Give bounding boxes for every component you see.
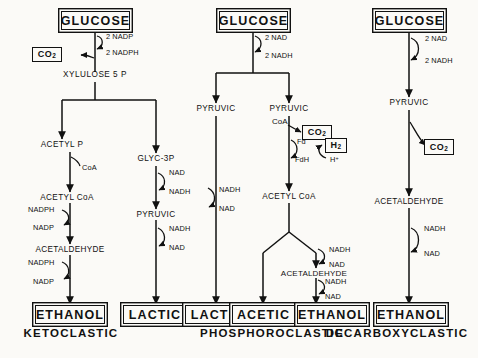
cofactor-2-nad-c3: 2 NAD xyxy=(425,34,447,43)
cofactor-nadp-1: NADP xyxy=(33,223,54,232)
label-coa-2: CoA xyxy=(272,117,288,126)
label-pyruvic-3: PYRUVIC xyxy=(389,98,428,107)
cofactor-nadph-1: NADPH xyxy=(28,205,54,214)
cofactor-2-nad-c2: 2 NAD xyxy=(265,33,287,42)
pathway-name-ketoclastic: KETOCLASTIC xyxy=(24,327,119,339)
cofactor-coa-1: CoA xyxy=(82,163,97,172)
label-glyc-3p: GLYC-3P xyxy=(137,154,174,163)
cofactor-curve-nadh-nad-c2a xyxy=(318,249,325,264)
label-acetyl-coa-1: ACETYL CoA xyxy=(40,193,94,202)
cofactor-line-coa xyxy=(71,157,80,166)
label-pyruvic-2-left: PYRUVIC xyxy=(196,104,235,113)
box-acetic-phosphoroclastic: ACETIC xyxy=(232,305,295,324)
cofactor-2-nadph: 2 NADPH xyxy=(106,48,139,57)
cofactor-curve-nadph-nadp-1 xyxy=(62,210,69,225)
cofactor-nadh-c2left: NADH xyxy=(219,185,240,194)
cofactor-nadh-c1: NADH xyxy=(169,187,190,196)
box-ethanol-decarboxyclastic: ETHANOL xyxy=(376,305,446,324)
cofactor-curve-nadph-nadp-2 xyxy=(62,262,69,279)
box-glucose-decarboxyclastic: GLUCOSE xyxy=(375,11,444,30)
ethanol-label-3: ETHANOL xyxy=(377,308,445,322)
cofactor-curve-2nad-2nadh-c2 xyxy=(255,36,261,52)
box-glucose-phosphoroclastic: GLUCOSE xyxy=(219,11,288,30)
cofactor-curve-nadh-nad-c2b xyxy=(318,280,325,294)
box-glucose-ketoclastic: GLUCOSE xyxy=(61,11,130,30)
ethanol-label-2: ETHANOL xyxy=(298,308,366,322)
cofactor-curve-nadh-nad-c3 xyxy=(411,228,419,252)
box-ethanol-ketoclastic: ETHANOL xyxy=(35,305,105,324)
branch-right-ethanol xyxy=(289,232,316,253)
label-pyruvic-1: PYRUVIC xyxy=(136,210,175,219)
fermentation-pathway-diagram: GLUCOSE CO2 ETHANOL LACTIC GLUCOSE CO2 H… xyxy=(0,0,478,358)
cofactor-curve-2nad-2nadh-c3 xyxy=(411,38,419,60)
label-acetyl-coa-2: ACETYL CoA xyxy=(262,192,316,201)
box-co2-decarboxyclastic: CO2 xyxy=(424,139,454,155)
label-acetyl-p: ACETYL P xyxy=(41,140,83,149)
ethanol-label-1: ETHANOL xyxy=(36,308,104,322)
cofactor-h-plus: H+ xyxy=(330,155,339,164)
cofactor-2-nadp: 2 NADP xyxy=(106,32,133,41)
cofactor-nad-c2left: NAD xyxy=(219,204,235,213)
pathway-name-decarboxyclastic: DECARBOXYCLASTIC xyxy=(326,327,469,339)
glucose-label-1: GLUCOSE xyxy=(61,14,131,28)
pathway-name-phosphoroclastic: PHOSPHOROCLASTIC xyxy=(200,327,344,339)
cofactor-nad-c1: NAD xyxy=(169,168,185,177)
cofactor-curve-nadp-nadph xyxy=(97,36,102,49)
lactic-label-1: LACTIC xyxy=(129,308,181,322)
acetic-label: ACETIC xyxy=(237,308,290,322)
co2-label-3: CO2 xyxy=(430,142,448,152)
cofactor-nadph-2: NADPH xyxy=(28,258,54,267)
cofactor-nadh-c2b: NADH xyxy=(325,277,346,286)
h2-label: H2 xyxy=(331,140,342,150)
box-h2-phosphoroclastic: H2 xyxy=(325,138,347,153)
cofactor-nad-c3: NAD xyxy=(424,249,440,258)
arrow-to-co2-ketoclastic xyxy=(81,55,94,58)
glucose-label-3: GLUCOSE xyxy=(375,14,445,28)
label-pyruvic-2-right: PYRUVIC xyxy=(269,104,308,113)
cofactor-nadh-c2a: NADH xyxy=(329,245,350,254)
cofactor-nad-c2b: NAD xyxy=(325,292,341,301)
cofactor-nad-c2a: NAD xyxy=(329,260,345,269)
cofactor-curve-nadh-nad-c1 xyxy=(158,228,165,246)
cofactor-nadh-c1b: NADH xyxy=(169,224,190,233)
label-xylulose-5p: XYLULOSE 5 P xyxy=(63,70,127,79)
cofactor-2-nadh-c3: 2 NADH xyxy=(425,56,453,65)
label-acetaldehyde-3: ACETALDEHYDE xyxy=(375,197,444,206)
box-ethanol-phosphoroclastic: ETHANOL xyxy=(297,305,367,324)
cofactor-curve-nadh-nad-c2left xyxy=(208,188,215,207)
glucose-label-2: GLUCOSE xyxy=(219,14,289,28)
cofactor-fdh: FdH xyxy=(295,155,309,164)
branch-left-acetic xyxy=(263,232,289,253)
box-co2-ketoclastic: CO2 xyxy=(32,47,62,62)
cofactor-fd: Fd xyxy=(297,137,306,146)
cofactor-nadh-c3: NADH xyxy=(424,224,445,233)
label-acetaldehyde-1: ACETALDEHYDE xyxy=(36,245,105,254)
co2-label-1: CO2 xyxy=(38,49,56,59)
cofactor-nad-c1b: NAD xyxy=(169,243,185,252)
arrow-to-co2-decarb xyxy=(410,122,425,145)
cofactor-2-nadh-c2: 2 NADH xyxy=(265,51,293,60)
box-lactic-ketoclastic: LACTIC xyxy=(123,305,187,324)
cofactor-nadp-2: NADP xyxy=(33,277,54,286)
cofactor-curve-nad-nadh-c1 xyxy=(158,173,165,190)
arrow-to-co2-phospho xyxy=(288,125,301,132)
co2-label-2: CO2 xyxy=(308,127,326,137)
